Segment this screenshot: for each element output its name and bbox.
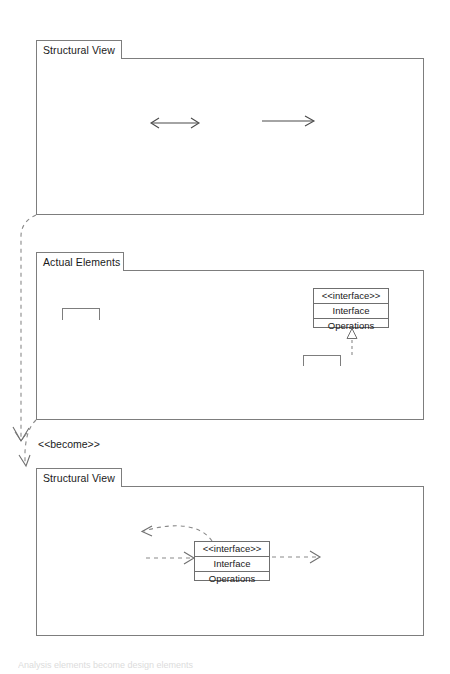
frame-tab-mask (37, 270, 123, 272)
interface-name: Interface (314, 304, 388, 319)
frame-actual-elements: Actual Elements (36, 252, 424, 420)
interface-element[interactable]: <<interface>> Interface Operations (313, 288, 389, 328)
subsystem-tab (303, 355, 341, 366)
frame-tab-label: Structural View (43, 45, 115, 56)
interface-operations: Operations (195, 572, 269, 586)
interface-stereotype: <<interface>> (195, 542, 269, 557)
package-tab (62, 308, 100, 320)
design-interface-element[interactable]: <<interface>> Interface Operations (194, 541, 270, 581)
frame-body-structural-view-analysis (36, 58, 424, 215)
frame-tab-actual-elements[interactable]: Actual Elements (36, 252, 124, 271)
frame-tab-label: Structural View (43, 473, 115, 484)
frame-tab-label: Actual Elements (43, 257, 120, 268)
frame-tab-structural-view-design[interactable]: Structural View (36, 468, 122, 487)
dependency-become-inner (19, 420, 36, 466)
dependency-become-label: <<become>> (38, 438, 100, 450)
frame-tab-mask (37, 58, 121, 60)
interface-operations: Operations (314, 319, 388, 333)
figure-caption: Analysis elements become design elements (18, 660, 432, 671)
frame-tab-mask (37, 486, 121, 488)
diagram-canvas: Structural View Boundary Attributes Oper… (0, 0, 450, 674)
interface-stereotype: <<interface>> (314, 289, 388, 304)
interface-name: Interface (195, 557, 269, 572)
frame-tab-structural-view-analysis[interactable]: Structural View (36, 40, 122, 59)
frame-structural-view-analysis: Structural View (36, 40, 424, 215)
dependency-become-outer (13, 215, 36, 441)
